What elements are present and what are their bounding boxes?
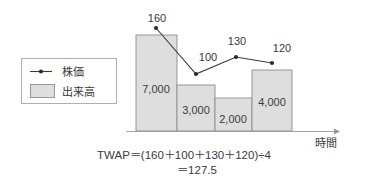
chart-page: 7,000 3,000 2,000 4,000 160 100 130 120 …: [0, 0, 368, 182]
x-axis-group: 時間: [126, 129, 340, 151]
price-marker-4: [270, 61, 274, 65]
price-marker-3: [234, 55, 238, 59]
legend: 株価 出来高: [22, 59, 117, 104]
bar-value-3: 2,000: [219, 113, 247, 125]
price-value-3: 130: [228, 35, 246, 47]
twap-formula: TWAP＝(160＋100＋130＋120)÷4 ＝127.5: [0, 148, 368, 178]
price-value-2: 100: [199, 51, 217, 63]
price-value-1: 160: [148, 12, 166, 24]
price-value-4: 120: [273, 42, 291, 54]
price-marker-2: [194, 72, 198, 76]
legend-label-volume: 出来高: [62, 85, 95, 99]
legend-label-price: 株価: [62, 65, 84, 79]
x-axis-arrow-icon: [334, 129, 340, 135]
twap-formula-line-1: TWAP＝(160＋100＋130＋120)÷4: [0, 148, 368, 163]
legend-swatch-icon: [31, 85, 55, 98]
price-marker-1: [154, 26, 158, 30]
bar-value-4: 4,000: [258, 96, 286, 108]
bar-value-2: 3,000: [182, 104, 210, 116]
legend-item-volume: 出来高: [31, 85, 96, 99]
legend-marker-dot-icon: [39, 69, 43, 73]
twap-formula-line-2: ＝127.5: [0, 163, 368, 178]
bar-value-1: 7,000: [142, 83, 170, 95]
